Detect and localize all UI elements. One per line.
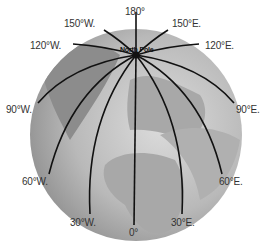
meridian-label-30w: 30°W. [70, 217, 96, 228]
meridian-label-150e: 150°E. [172, 18, 201, 29]
meridian-label-180: 180° [125, 6, 145, 17]
meridian-label-60w: 60°W. [22, 176, 48, 187]
meridian-label-90e: 90°E. [236, 104, 260, 115]
meridian-label-150w: 150°W. [64, 18, 95, 29]
meridian-label-30e: 30°E. [171, 217, 195, 228]
meridian-label-90w: 90°W. [6, 104, 32, 115]
globe [0, 0, 264, 243]
meridian-label-60e: 60°E. [219, 176, 243, 187]
meridian-label-0: 0° [129, 227, 138, 238]
meridian-label-120e: 120°E. [205, 40, 234, 51]
meridian-label-120w: 120°W. [30, 40, 61, 51]
north-pole-label: North Pole [120, 46, 153, 53]
